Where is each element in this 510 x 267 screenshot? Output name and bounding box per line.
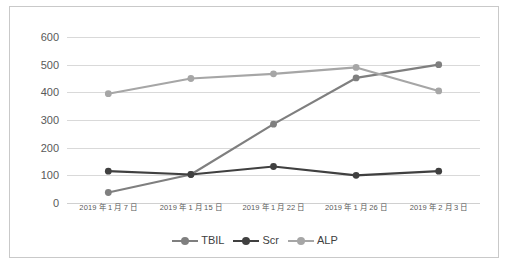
legend-item-tbil[interactable]: TBIL	[172, 235, 224, 246]
data-point[interactable]	[105, 189, 112, 196]
legend-label-tbil: TBIL	[201, 235, 224, 246]
data-point[interactable]	[270, 121, 277, 128]
chart-series-layer	[10, 7, 500, 259]
legend-label-alp: ALP	[317, 235, 338, 246]
data-point[interactable]	[188, 171, 195, 178]
data-point[interactable]	[435, 61, 442, 68]
data-point[interactable]	[435, 88, 442, 95]
data-point[interactable]	[353, 172, 360, 179]
chart-legend: TBIL Scr ALP	[10, 235, 500, 246]
legend-swatch-tbil	[172, 236, 198, 246]
data-point[interactable]	[188, 75, 195, 82]
data-point[interactable]	[270, 70, 277, 77]
series-alp	[105, 64, 442, 97]
legend-item-scr[interactable]: Scr	[233, 235, 279, 246]
legend-label-scr: Scr	[262, 235, 279, 246]
chart-plot-area: 600 500 400 300 200 100 0 2019 年 1 月 7 日…	[10, 7, 500, 259]
data-point[interactable]	[353, 75, 360, 82]
legend-swatch-scr	[233, 236, 259, 246]
series-tbil	[105, 61, 442, 196]
chart-frame: 600 500 400 300 200 100 0 2019 年 1 月 7 日…	[9, 6, 499, 258]
data-point[interactable]	[105, 168, 112, 175]
data-point[interactable]	[435, 168, 442, 175]
data-point[interactable]	[105, 90, 112, 97]
data-point[interactable]	[270, 163, 277, 170]
legend-swatch-alp	[288, 236, 314, 246]
legend-item-alp[interactable]: ALP	[288, 235, 338, 246]
series-scr	[105, 163, 442, 179]
data-point[interactable]	[353, 64, 360, 71]
